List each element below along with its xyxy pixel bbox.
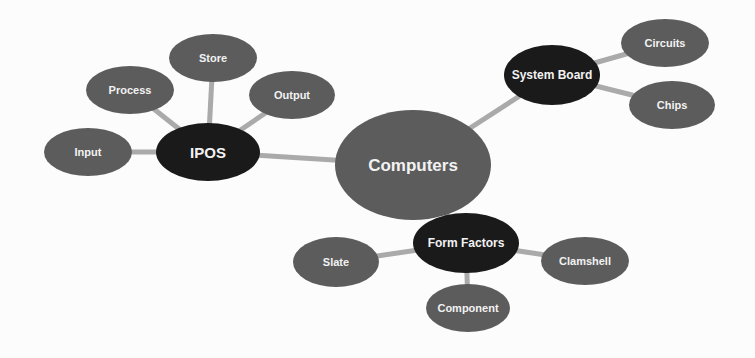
- node-clamshell: Clamshell: [541, 237, 629, 285]
- node-label-clamshell: Clamshell: [559, 255, 611, 267]
- node-input: Input: [44, 128, 132, 176]
- node-label-chips: Chips: [657, 99, 688, 111]
- mind-map-diagram: ComputersIPOSInputProcessStoreOutputSyst…: [0, 0, 755, 358]
- node-chips: Chips: [629, 81, 715, 129]
- node-system-board: System Board: [504, 45, 600, 105]
- node-form-factors: Form Factors: [413, 213, 519, 273]
- node-component: Component: [426, 284, 510, 332]
- node-label-computers: Computers: [368, 156, 458, 175]
- node-label-system-board: System Board: [512, 68, 593, 82]
- node-circuits: Circuits: [621, 19, 709, 67]
- node-store: Store: [169, 34, 257, 82]
- node-output: Output: [249, 71, 335, 119]
- node-ipos: IPOS: [156, 123, 260, 181]
- node-label-slate: Slate: [323, 256, 349, 268]
- node-computers: Computers: [335, 110, 491, 220]
- node-label-input: Input: [75, 146, 102, 158]
- node-label-output: Output: [274, 89, 310, 101]
- node-label-circuits: Circuits: [645, 37, 686, 49]
- node-process: Process: [86, 66, 174, 114]
- node-label-process: Process: [109, 84, 152, 96]
- node-label-component: Component: [437, 302, 498, 314]
- node-label-form-factors: Form Factors: [428, 236, 505, 250]
- node-slate: Slate: [293, 237, 379, 287]
- node-label-store: Store: [199, 52, 227, 64]
- diagram-nodes: ComputersIPOSInputProcessStoreOutputSyst…: [44, 19, 715, 332]
- node-label-ipos: IPOS: [190, 144, 226, 161]
